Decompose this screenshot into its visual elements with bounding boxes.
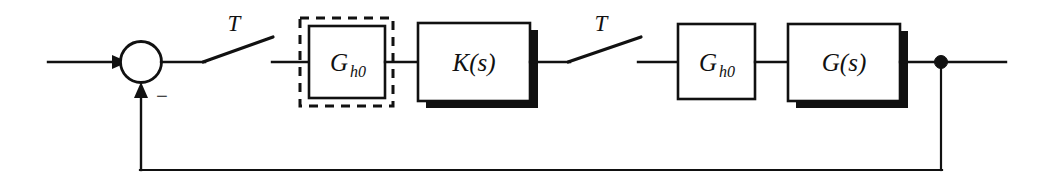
sampler-2-label: T xyxy=(595,11,610,36)
input-wire xyxy=(48,55,128,69)
sampler-1-blade[interactable] xyxy=(203,37,273,62)
g-s-label: G(s) xyxy=(822,49,866,77)
sampler-switch-2[interactable]: T xyxy=(568,11,641,62)
gh0-right-subscript: h0 xyxy=(719,63,735,80)
k-s-label: K(s) xyxy=(451,49,495,77)
feedback-minus-sign: − xyxy=(156,84,168,108)
sampler-1-label: T xyxy=(228,11,243,36)
feedback-arrowhead xyxy=(134,82,148,98)
gh0-left-subscript: h0 xyxy=(350,63,366,80)
gh0-right-label: G xyxy=(699,49,717,76)
block-g-s[interactable]: G(s) xyxy=(788,24,908,108)
summing-junction[interactable] xyxy=(121,42,162,83)
block-gh0-right[interactable]: G h0 xyxy=(678,24,755,99)
sampler-switch-1[interactable]: T xyxy=(203,11,273,62)
block-diagram-canvas: − T G h0 K(s) xyxy=(0,0,1052,187)
block-gh0-left[interactable]: G h0 xyxy=(300,18,393,106)
block-diagram-svg: − T G h0 K(s) xyxy=(0,0,1052,187)
gh0-left-label: G xyxy=(330,49,348,76)
sampler-2-blade[interactable] xyxy=(568,37,641,62)
feedback-arrow-into-junction xyxy=(134,82,148,170)
block-k-s[interactable]: K(s) xyxy=(418,23,538,108)
summing-junction-circle[interactable] xyxy=(121,42,162,83)
